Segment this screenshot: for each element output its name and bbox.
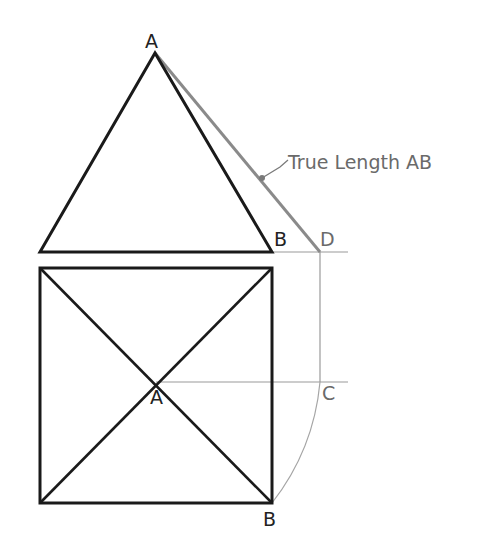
annotation-true-length: True Length AB	[287, 151, 432, 173]
leader-line	[262, 160, 288, 178]
true-length-diagram: A B D A C B True Length AB	[0, 0, 497, 559]
label-plan-A: A	[150, 386, 163, 408]
label-elevation-B: B	[274, 228, 287, 250]
label-elevation-A: A	[145, 30, 158, 52]
rotation-arc-B-to-C	[272, 382, 320, 503]
label-plan-B: B	[263, 508, 276, 530]
label-C: C	[322, 382, 335, 404]
label-D: D	[320, 228, 335, 250]
